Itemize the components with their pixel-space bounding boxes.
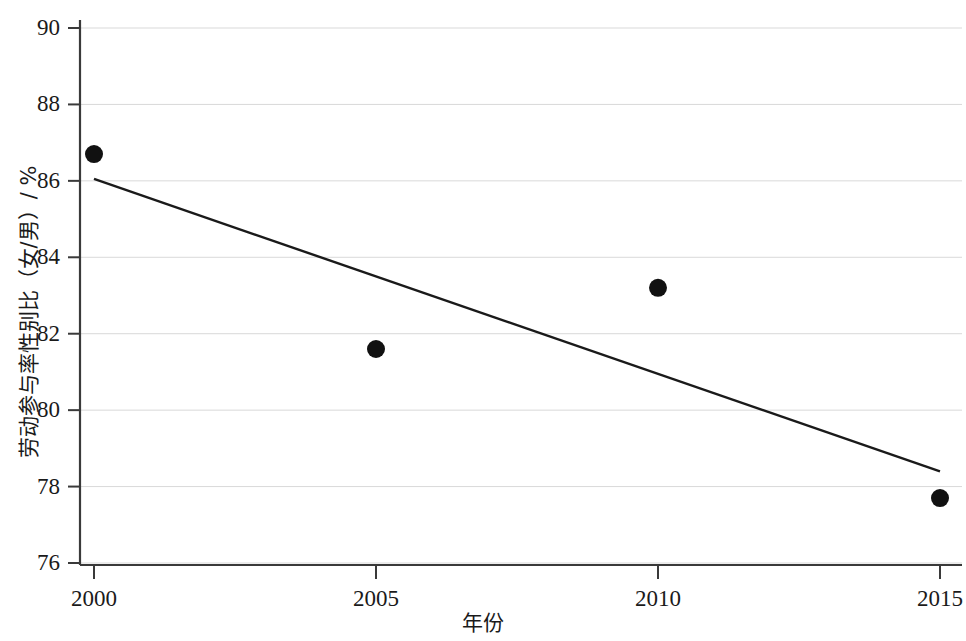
trend-line (94, 179, 940, 471)
plot-area (0, 0, 966, 641)
x-axis-ticks-group (94, 565, 940, 579)
trend-line-group (94, 179, 940, 471)
data-point (649, 279, 667, 297)
y-axis-tick-label: 76 (0, 550, 60, 576)
y-axis-title: 劳动参与率性别比（女/男）/ % (12, 82, 42, 542)
data-point (931, 489, 949, 507)
y-axis-tick-label: 90 (0, 15, 60, 41)
data-point (367, 340, 385, 358)
x-axis-title: 年份 (0, 606, 966, 636)
data-point (85, 145, 103, 163)
y-axis-ticks-group (68, 28, 80, 563)
gridlines-group (80, 28, 962, 563)
chart-figure: 7678808284868890 2000200520102015 劳动参与率性… (0, 0, 966, 641)
